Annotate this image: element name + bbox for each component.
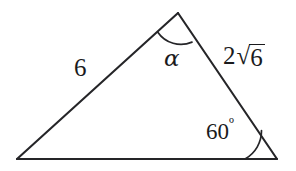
radical-sign-icon: √ [237, 43, 251, 68]
side-length-label-right: 2 √ 6 [223, 43, 265, 69]
angle-arc-base-right [245, 131, 262, 159]
radical-expression: 2 √ 6 [223, 43, 265, 69]
triangle-diagram: 6 2 √ 6 α 60º [0, 0, 296, 171]
triangle-side-left [17, 13, 178, 159]
degree-symbol-icon: º [229, 115, 234, 132]
side-length-label-left: 6 [74, 55, 87, 80]
triangle-svg-canvas [0, 0, 296, 171]
angle-value-number: 60 [206, 119, 229, 144]
angle-arc-apex [158, 32, 192, 44]
angle-label-alpha: α [164, 47, 180, 70]
angle-label-sixty-degrees: 60º [206, 120, 234, 143]
radical-coefficient: 2 [223, 43, 236, 68]
radicand-value: 6 [249, 44, 265, 70]
